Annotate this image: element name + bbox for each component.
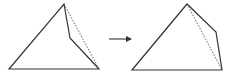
left-figure: [9, 4, 99, 69]
left-dented-polygon: [9, 4, 99, 69]
diagram-canvas: [0, 0, 236, 78]
right-convex-polygon: [132, 4, 222, 70]
right-figure: [132, 4, 222, 70]
